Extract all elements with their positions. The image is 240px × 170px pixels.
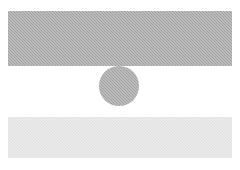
center-circle [99, 66, 139, 106]
top-bar-rectangle [8, 11, 232, 66]
bottom-bar-rectangle [8, 117, 232, 158]
shape-canvas [0, 0, 240, 170]
